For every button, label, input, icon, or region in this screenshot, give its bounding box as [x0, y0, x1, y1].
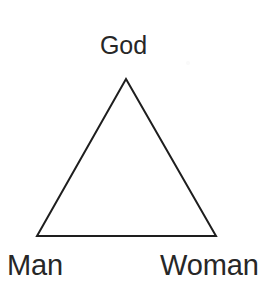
scan-artifact-speck: [186, 61, 190, 65]
vertex-label-woman: Woman: [160, 251, 259, 280]
triangle-outline: [37, 79, 216, 236]
vertex-label-man: Man: [7, 251, 63, 280]
vertex-label-god: God: [100, 33, 147, 58]
diagram-canvas: God Man Woman: [0, 0, 279, 288]
